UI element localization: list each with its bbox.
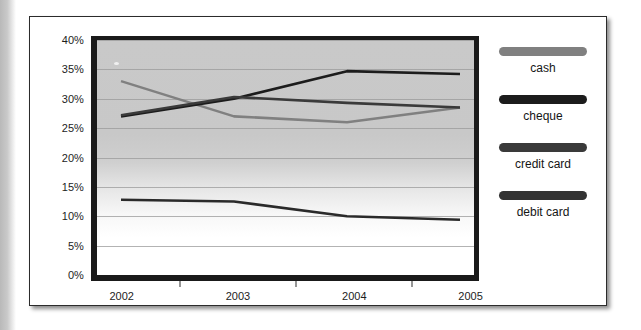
series-line-cash bbox=[121, 81, 460, 122]
legend-label: cash bbox=[489, 61, 597, 76]
series-line-cheque bbox=[121, 71, 460, 116]
y-axis-tick-label: 5% bbox=[68, 240, 84, 252]
x-axis-tick-label: 2003 bbox=[226, 290, 250, 302]
y-axis-tick-label: 10% bbox=[62, 210, 84, 222]
legend-label: cheque bbox=[489, 109, 597, 124]
legend-item-cash[interactable]: cash bbox=[489, 47, 597, 76]
legend-swatch bbox=[499, 95, 587, 104]
legend-swatch bbox=[499, 143, 587, 152]
y-axis-tick-label: 40% bbox=[62, 34, 84, 46]
x-axis: 2002200320042005 bbox=[91, 281, 479, 307]
x-axis-tick-label: 2004 bbox=[342, 290, 366, 302]
scan-edge-strip bbox=[0, 0, 16, 330]
series-line-debit-card bbox=[121, 200, 460, 220]
x-axis-tick-label: 2005 bbox=[458, 290, 482, 302]
chart-card: 40%35%30%25%20%15%10%5%0% 20022003200420… bbox=[29, 16, 607, 306]
plot-area bbox=[91, 36, 479, 281]
plot-background bbox=[97, 40, 474, 275]
legend-swatch bbox=[499, 191, 587, 200]
legend-swatch bbox=[499, 47, 587, 56]
legend-item-cheque[interactable]: cheque bbox=[489, 95, 597, 124]
x-axis-tick-mark bbox=[296, 281, 297, 287]
y-axis-tick-label: 35% bbox=[62, 63, 84, 75]
legend-label: debit card bbox=[489, 205, 597, 220]
y-axis: 40%35%30%25%20%15%10%5%0% bbox=[42, 36, 88, 281]
chart-legend: cashchequecredit carddebit card bbox=[489, 47, 597, 239]
x-axis-tick-label: 2002 bbox=[109, 290, 133, 302]
legend-item-credit-card[interactable]: credit card bbox=[489, 143, 597, 172]
y-axis-tick-label: 15% bbox=[62, 181, 84, 193]
x-axis-tick-mark bbox=[179, 281, 180, 287]
series-line-credit-card bbox=[121, 97, 460, 115]
y-axis-tick-label: 0% bbox=[68, 269, 84, 281]
y-axis-tick-label: 30% bbox=[62, 93, 84, 105]
series-lines bbox=[97, 40, 474, 275]
legend-item-debit-card[interactable]: debit card bbox=[489, 191, 597, 220]
y-axis-tick-label: 20% bbox=[62, 152, 84, 164]
x-axis-tick-mark bbox=[412, 281, 413, 287]
legend-label: credit card bbox=[489, 157, 597, 172]
y-axis-tick-label: 25% bbox=[62, 122, 84, 134]
